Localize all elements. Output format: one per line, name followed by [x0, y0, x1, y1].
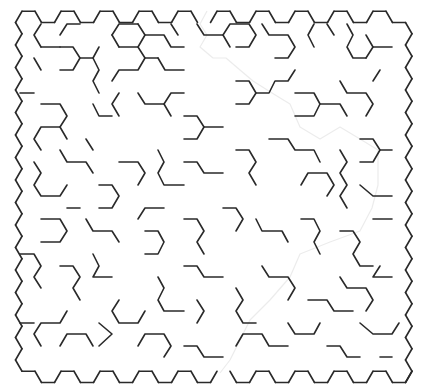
boundary-wall-segment [406, 112, 413, 123]
boundary-wall-segment [113, 11, 120, 22]
boundary-wall-segment [16, 349, 23, 360]
boundary-wall-segment [16, 214, 23, 225]
interior-wall [320, 104, 347, 116]
interior-wall [327, 346, 360, 357]
interior-wall [327, 24, 334, 35]
interior-wall [171, 24, 178, 35]
boundary-wall-segment [16, 203, 23, 214]
boundary-wall-segment [406, 214, 413, 225]
boundary-wall-segment [406, 247, 413, 258]
interior-wall [262, 24, 295, 58]
interior-wall [112, 300, 145, 323]
interior-wall [269, 139, 320, 162]
boundary-wall-segment [386, 11, 393, 22]
boundary-wall-segment [406, 270, 413, 281]
interior-wall [301, 219, 320, 254]
interior-wall [34, 58, 41, 70]
boundary-wall-segment [35, 11, 42, 22]
boundary-wall-segment [406, 135, 413, 146]
interior-wall [34, 24, 41, 47]
boundary-wall-segment [16, 68, 23, 79]
boundary-wall-segment [406, 281, 413, 292]
boundary-wall-segment [152, 371, 159, 382]
interior-wall [158, 150, 184, 185]
boundary-wall-segment [133, 371, 140, 382]
boundary-wall-segment [16, 45, 23, 56]
boundary-wall-segment [55, 11, 62, 22]
boundary-wall-segment [406, 191, 413, 202]
boundary-wall-segment [74, 371, 81, 382]
interior-wall [360, 139, 380, 162]
boundary-wall-segment [406, 259, 413, 270]
maze-canvas [0, 0, 425, 386]
boundary-wall-segment [406, 79, 413, 90]
interior-wall [41, 219, 67, 242]
boundary-wall-segment [347, 371, 354, 382]
hex-maze [0, 0, 425, 386]
boundary-wall-segment [406, 101, 413, 112]
interior-wall [288, 323, 320, 334]
interior-wall [262, 266, 295, 300]
boundary-wall-segment [16, 191, 23, 202]
boundary-wall-segment [172, 11, 179, 22]
boundary-wall-segment [16, 113, 23, 124]
boundary-wall-segment [16, 158, 23, 169]
boundary-wall-segment [269, 371, 276, 382]
interior-wall [86, 219, 119, 242]
boundary-wall-segment [113, 371, 120, 382]
interior-wall [236, 150, 256, 185]
boundary-wall-segment [94, 371, 101, 382]
boundary-wall-segment [16, 259, 23, 270]
boundary-wall-segment [55, 371, 62, 382]
boundary-wall-segment [16, 293, 23, 304]
boundary-wall-segment [406, 124, 413, 135]
interior-wall [236, 334, 288, 346]
boundary-wall-segment [191, 11, 198, 22]
boundary-wall-segment [406, 67, 413, 78]
interior-wall [138, 24, 184, 47]
boundary-wall-segment [16, 90, 23, 101]
interior-wall [340, 81, 373, 116]
interior-wall [184, 266, 223, 277]
interior-wall [366, 35, 373, 58]
boundary-wall-segment [35, 371, 42, 382]
boundary-wall-segment [16, 146, 23, 157]
interior-wall [373, 70, 380, 81]
interior-wall [86, 139, 93, 150]
boundary-wall-segment [406, 34, 413, 45]
boundary-wall-segment [250, 11, 257, 22]
boundary-wall-segment [269, 11, 276, 22]
boundary-wall-segment [16, 326, 23, 337]
boundary-wall-segment [308, 371, 315, 382]
boundary-wall-segment [308, 11, 315, 22]
interior-wall [112, 24, 138, 35]
interior-wall [360, 323, 399, 334]
boundary-wall-segment [191, 371, 198, 382]
boundary-wall-segment [386, 371, 393, 382]
boundary-wall-segment [16, 101, 23, 112]
boundary-wall-segment [406, 315, 413, 326]
interior-wall [34, 311, 67, 346]
interior-wall [236, 81, 256, 104]
boundary-wall-segment [16, 56, 23, 67]
interior-wall [301, 173, 334, 196]
interior-wall [295, 93, 320, 116]
boundary-wall-segment [406, 292, 413, 303]
boundary-wall-segment [406, 146, 413, 157]
boundary-wall-segment [230, 11, 237, 22]
boundary-wall-segment [406, 45, 413, 56]
boundary-wall-segment [406, 225, 413, 236]
boundary-wall-segment [406, 202, 413, 213]
boundary-wall-segment [16, 11, 23, 22]
boundary-wall-segment [16, 304, 23, 315]
boundary-wall-segment [406, 169, 413, 180]
boundary-wall-segment [16, 169, 23, 180]
interior-wall [184, 346, 223, 357]
interior-wall [34, 162, 67, 196]
interior-wall [138, 208, 164, 219]
interior-wall [112, 93, 119, 116]
boundary-wall-segment [16, 270, 23, 281]
interior-wall [93, 104, 112, 116]
boundary-wall-segment [16, 236, 23, 247]
boundary-wall-segment [406, 22, 413, 33]
